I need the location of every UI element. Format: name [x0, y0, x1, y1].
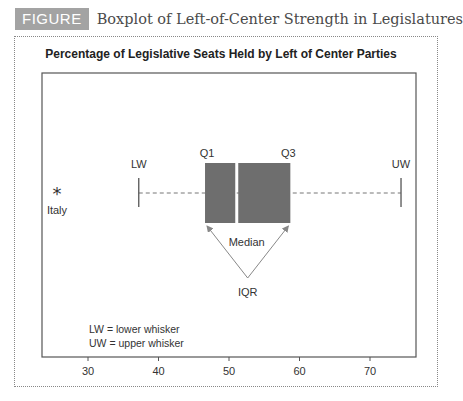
box-q1-median — [205, 163, 235, 223]
uw-label: UW — [392, 158, 411, 170]
outlier-asterisk-icon: * — [52, 183, 61, 204]
legend-lw: LW = lower whisker — [89, 323, 180, 335]
q3-label: Q3 — [281, 147, 296, 159]
median-arrow-right — [248, 226, 289, 278]
x-tick-label: 40 — [152, 365, 164, 377]
median-arrow-left — [207, 226, 248, 278]
x-tick-label: 30 — [82, 365, 94, 377]
outlier-label: Italy — [47, 204, 68, 216]
x-tick-label: 60 — [293, 365, 305, 377]
x-axis: 3040506070 — [82, 357, 376, 377]
x-tick-label: 50 — [223, 365, 235, 377]
median-label: Median — [229, 236, 265, 248]
box-median-q3 — [238, 163, 290, 223]
q1-label: Q1 — [200, 147, 215, 159]
lw-label: LW — [131, 158, 147, 170]
x-tick-label: 70 — [364, 365, 376, 377]
iqr-label: IQR — [238, 286, 258, 298]
legend-uw: UW = upper whisker — [89, 337, 184, 349]
